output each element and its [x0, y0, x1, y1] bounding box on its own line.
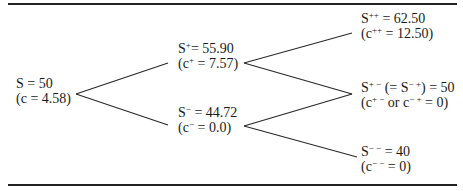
downdown-price: S− − = 40 — [361, 144, 411, 159]
updown-option: (c+ − or c− + = 0) — [361, 95, 455, 110]
edge-up-upup — [244, 33, 352, 63]
node-root: S = 50 (c = 4.58) — [16, 76, 71, 106]
edge-down-updown — [244, 94, 352, 126]
root-option: (c = 4.58) — [16, 91, 71, 106]
down-price: S− = 44.72 — [178, 105, 237, 120]
root-price: S = 50 — [16, 76, 71, 91]
upup-option: (c++ = 12.50) — [361, 26, 433, 41]
edge-root-down — [76, 94, 168, 125]
node-up: S+= 55.90 (c+ = 7.57) — [178, 41, 238, 71]
edge-up-updown — [244, 63, 352, 94]
downdown-option: (c− − = 0) — [361, 159, 411, 174]
upup-price: S++ = 62.50 — [361, 11, 433, 26]
up-option: (c+ = 7.57) — [178, 56, 238, 71]
node-up-up: S++ = 62.50 (c++ = 12.50) — [361, 11, 433, 41]
node-down-down: S− − = 40 (c− − = 0) — [361, 144, 411, 174]
edge-down-downdown — [244, 126, 357, 157]
updown-price: S+ − (= S− +) = 50 — [361, 80, 455, 95]
up-price: S+= 55.90 — [178, 41, 238, 56]
down-option: (c− = 0.0) — [178, 120, 237, 135]
edge-root-up — [76, 63, 168, 94]
node-down: S− = 44.72 (c− = 0.0) — [178, 105, 237, 135]
node-up-down: S+ − (= S− +) = 50 (c+ − or c− + = 0) — [361, 80, 455, 110]
